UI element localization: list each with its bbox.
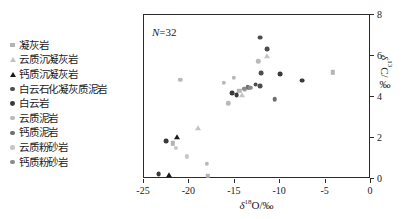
data-point (226, 101, 230, 105)
data-point (174, 134, 180, 139)
y-axis-tick (370, 55, 374, 56)
x-axis-tick (188, 179, 189, 183)
legend-item-label: 白云石化凝灰质泥岩 (19, 84, 107, 95)
data-point (166, 172, 172, 177)
y-axis-tick (370, 178, 374, 179)
legend-item-label: 钙质沉凝灰岩 (19, 69, 78, 80)
x-axis-label: δ18O/‰ (143, 199, 370, 211)
chart-figure: 凝灰岩云质沉凝灰岩钙质沉凝灰岩白云石化凝灰质泥岩白云岩云质泥岩钙质泥岩云质粉砂岩… (0, 0, 416, 219)
x-axis-tick-label: -10 (273, 185, 286, 196)
legend-marker-circle-icon (6, 156, 19, 169)
legend-marker-circle-icon (6, 112, 19, 125)
legend-item-label: 云质沉凝灰岩 (19, 54, 78, 65)
y-axis-tick-label: 0 (377, 173, 382, 184)
data-point (204, 161, 208, 165)
legend-item[interactable]: 钙质沉凝灰岩 (6, 67, 132, 82)
legend-marker-circle-icon (6, 83, 19, 96)
data-point (156, 171, 161, 176)
data-point (258, 35, 263, 40)
data-point (259, 71, 264, 76)
legend-item-label: 钙质粉砂岩 (19, 157, 68, 168)
data-point (171, 141, 175, 145)
data-point (300, 78, 305, 83)
y-axis-label: δ13C/‰ (377, 55, 391, 90)
legend-item[interactable]: 钙质粉砂岩 (6, 155, 132, 170)
data-point (331, 70, 335, 74)
x-axis-tick-label: -5 (320, 185, 328, 196)
legend-item[interactable]: 钙质泥岩 (6, 126, 132, 141)
x-axis-tick-label: 0 (368, 185, 373, 196)
y-axis-tick (370, 137, 374, 138)
data-point (163, 139, 168, 144)
data-point (239, 92, 245, 97)
legend-item-label: 钙质泥岩 (19, 127, 58, 138)
y-axis-tick-label: 8 (377, 9, 382, 20)
legend-marker-circle-icon (6, 126, 19, 139)
sample-count-annotation: N=32 (152, 26, 177, 38)
y-axis-tick-label: 4 (377, 91, 382, 102)
x-isotope-superscript: 18 (245, 198, 252, 206)
data-point (234, 93, 239, 98)
data-point (205, 174, 209, 178)
plot-area (143, 14, 370, 178)
x-axis-tick (370, 179, 371, 183)
x-axis-tick (325, 179, 326, 183)
data-point (258, 83, 263, 88)
x-axis-tick-label: -25 (136, 185, 149, 196)
legend-item[interactable]: 白云石化凝灰质泥岩 (6, 82, 132, 97)
data-point (185, 154, 189, 158)
data-point (278, 72, 283, 77)
x-axis-tick (234, 179, 235, 183)
legend-marker-square-icon (6, 39, 19, 52)
data-point (256, 59, 260, 63)
legend-item-label: 凝灰岩 (19, 40, 48, 51)
data-point (222, 80, 226, 84)
data-point (178, 77, 182, 81)
y-axis-tick-label: 2 (377, 132, 382, 143)
legend-item-label: 云质泥岩 (19, 113, 58, 124)
data-point (195, 125, 201, 130)
legend-item[interactable]: 云质沉凝灰岩 (6, 53, 132, 68)
legend-item[interactable]: 白云岩 (6, 96, 132, 111)
y-axis: 02468 (370, 14, 400, 179)
y-axis-tick (370, 96, 374, 97)
n-value: =32 (159, 26, 176, 38)
legend-item-label: 云质粉砂岩 (19, 142, 68, 153)
data-point (264, 53, 270, 58)
legend-item[interactable]: 凝灰岩 (6, 38, 132, 53)
legend-item[interactable]: 云质泥岩 (6, 111, 132, 126)
legend-item[interactable]: 云质粉砂岩 (6, 140, 132, 155)
y-axis-tick (370, 14, 374, 15)
legend-marker-triangle-icon (6, 68, 19, 81)
x-unit-text: O/‰ (252, 199, 274, 211)
legend-marker-triangle-icon (6, 53, 19, 66)
data-point (232, 75, 236, 79)
data-point (272, 97, 277, 102)
x-axis-tick (279, 179, 280, 183)
legend-marker-circle-icon (6, 141, 19, 154)
x-axis-tick-label: -15 (227, 185, 240, 196)
legend-item-label: 白云岩 (19, 98, 48, 109)
data-point (248, 86, 252, 90)
data-point (242, 87, 246, 91)
x-axis-tick (143, 179, 144, 183)
legend-marker-circle-icon (6, 97, 19, 110)
x-axis-tick-label: -20 (182, 185, 195, 196)
chart-legend: 凝灰岩云质沉凝灰岩钙质沉凝灰岩白云石化凝灰质泥岩白云岩云质泥岩钙质泥岩云质粉砂岩… (6, 38, 132, 169)
data-point (265, 46, 270, 51)
data-point (174, 146, 178, 150)
y-unit-text: C/‰ (379, 67, 391, 89)
